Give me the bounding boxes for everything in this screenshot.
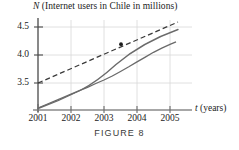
tangent-line <box>38 22 178 83</box>
figure-caption: FIGURE 8 <box>0 128 239 138</box>
y-tick-label-4-5: 4.5 <box>3 21 29 31</box>
tangent-point-marker <box>119 42 123 46</box>
y-tick-label-3-5: 3.5 <box>3 77 29 87</box>
x-axis-title: t (years) <box>195 103 226 113</box>
x-tick-label-2003: 2003 <box>87 113 121 123</box>
data-curve <box>38 44 121 108</box>
internet-users-curve-smooth <box>38 30 178 109</box>
data-curve-path <box>38 31 130 108</box>
x-tick-label-2001: 2001 <box>21 113 55 123</box>
y-axis-title: N (Internet users in Chile in millions) <box>33 1 177 11</box>
gridlines-vertical <box>71 20 170 110</box>
y-tick-label-4-0: 4.0 <box>3 49 29 59</box>
internet-users-curve <box>38 42 176 108</box>
y-axis-title-text: (Internet users in Chile in millions) <box>39 1 177 11</box>
x-axis-title-text: (years) <box>198 103 227 113</box>
x-tick-label-2002: 2002 <box>54 113 88 123</box>
figure-container: N (Internet users in Chile in millions) … <box>0 0 239 150</box>
x-tick-label-2005: 2005 <box>153 113 187 123</box>
x-tick-label-2004: 2004 <box>120 113 154 123</box>
